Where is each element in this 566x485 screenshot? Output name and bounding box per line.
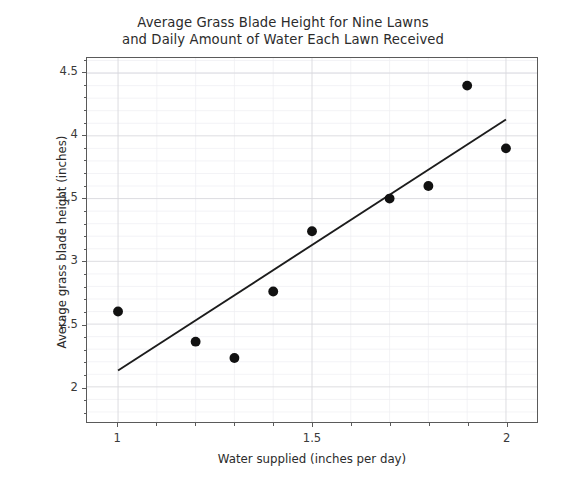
data-point — [423, 181, 433, 191]
y-tick-major — [82, 388, 86, 389]
plot-area — [86, 57, 538, 423]
data-point — [307, 226, 317, 236]
x-tick-major — [507, 423, 508, 427]
data-layer — [87, 58, 537, 422]
y-tick-minor — [84, 249, 87, 250]
data-point — [501, 143, 511, 153]
x-tick-label: 1 — [97, 431, 137, 445]
x-tick-minor — [156, 423, 157, 426]
y-tick-minor — [84, 173, 87, 174]
y-tick-minor — [84, 110, 87, 111]
y-tick-minor — [84, 186, 87, 187]
x-tick-major — [117, 423, 118, 427]
data-point — [191, 337, 201, 347]
data-point — [462, 81, 472, 91]
data-point — [113, 307, 123, 317]
data-point — [229, 353, 239, 363]
y-tick-minor — [84, 362, 87, 363]
y-tick-major — [82, 135, 86, 136]
x-tick-minor — [234, 423, 235, 426]
y-tick-minor — [84, 312, 87, 313]
y-tick-minor — [84, 299, 87, 300]
y-tick-minor — [84, 148, 87, 149]
trend-line — [118, 120, 506, 371]
y-tick-minor — [84, 274, 87, 275]
y-tick-minor — [84, 413, 87, 414]
y-tick-minor — [84, 85, 87, 86]
y-axis-label: Average grass blade height (inches) — [55, 59, 69, 425]
x-tick-minor — [468, 423, 469, 426]
x-tick-minor — [429, 423, 430, 426]
x-tick-label: 2 — [487, 431, 527, 445]
y-tick-minor — [84, 287, 87, 288]
x-tick-major — [312, 423, 313, 427]
y-tick-major — [82, 325, 86, 326]
x-axis-label: Water supplied (inches per day) — [86, 452, 538, 466]
scatter-plot-figure: Average Grass Blade Height for Nine Lawn… — [0, 0, 566, 485]
y-tick-minor — [84, 375, 87, 376]
y-tick-minor — [84, 337, 87, 338]
y-tick-minor — [84, 224, 87, 225]
data-point — [385, 194, 395, 204]
y-tick-minor — [84, 400, 87, 401]
x-tick-minor — [390, 423, 391, 426]
y-tick-minor — [84, 350, 87, 351]
chart-title: Average Grass Blade Height for Nine Lawn… — [0, 14, 566, 48]
y-tick-minor — [84, 236, 87, 237]
y-tick-minor — [84, 211, 87, 212]
y-tick-minor — [84, 160, 87, 161]
x-tick-minor — [195, 423, 196, 426]
y-tick-major — [82, 198, 86, 199]
y-tick-minor — [84, 60, 87, 61]
x-tick-minor — [351, 423, 352, 426]
y-tick-major — [82, 72, 86, 73]
y-tick-minor — [84, 97, 87, 98]
data-point — [268, 287, 278, 297]
y-tick-major — [82, 261, 86, 262]
y-tick-minor — [84, 123, 87, 124]
x-tick-minor — [273, 423, 274, 426]
x-tick-label: 1.5 — [292, 431, 332, 445]
